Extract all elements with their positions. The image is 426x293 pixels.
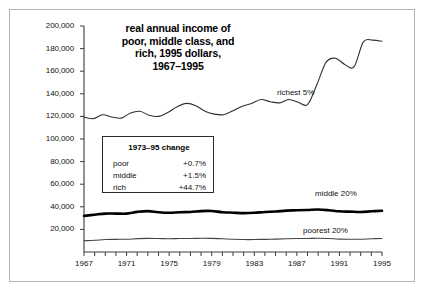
y-tick-label: 140,000 [22, 89, 74, 98]
x-tick-label: 1979 [195, 259, 229, 268]
y-tick-label: 40,000 [22, 202, 74, 211]
series-path-middle-20- [84, 210, 382, 216]
chart-title: real annual income ofpoor, middle class,… [108, 22, 248, 72]
x-tick-label: 1975 [152, 259, 186, 268]
x-axis-ticks [84, 252, 382, 256]
change-row-middle-value: +1.5% [183, 171, 206, 180]
y-tick-label: 20,000 [22, 224, 74, 233]
change-row-poor-label: poor [113, 159, 129, 168]
change-summary-box: 1973–95 change poor +0.7% middle +1.5% r… [102, 136, 214, 193]
series-label-poorest: poorest 20% [303, 226, 348, 235]
change-summary-title: 1973–95 change [103, 143, 215, 152]
x-tick-label: 1995 [365, 259, 399, 268]
chart-title-line-1: poor, middle class, and [108, 35, 248, 48]
chart-title-line-0: real annual income of [108, 22, 248, 35]
x-tick-label: 1987 [280, 259, 314, 268]
x-tick-label: 1967 [67, 259, 101, 268]
change-row-rich-label: rich [113, 183, 126, 192]
y-tick-label: 200,000 [22, 21, 74, 30]
y-axis-ticks [80, 26, 84, 229]
change-row-rich: rich +44.7% [103, 183, 215, 196]
x-tick-label: 1971 [110, 259, 144, 268]
y-tick-label: 160,000 [22, 66, 74, 75]
series-label-richest: richest 5% [277, 88, 314, 97]
y-tick-label: 80,000 [22, 157, 74, 166]
y-tick-label: 120,000 [22, 111, 74, 120]
y-tick-label: 100,000 [22, 134, 74, 143]
series-label-middle: middle 20% [315, 189, 357, 198]
x-tick-label: 1983 [237, 259, 271, 268]
change-row-middle-label: middle [113, 171, 137, 180]
chart-title-line-2: rich, 1995 dollars, [108, 47, 248, 60]
change-row-rich-value: +44.7% [179, 183, 206, 192]
chart-title-line-3: 1967–1995 [108, 60, 248, 73]
change-row-poor-value: +0.7% [183, 159, 206, 168]
y-tick-label: 60,000 [22, 179, 74, 188]
x-tick-label: 1991 [322, 259, 356, 268]
series-path-poorest-20- [84, 238, 382, 240]
y-tick-label: 180,000 [22, 44, 74, 53]
